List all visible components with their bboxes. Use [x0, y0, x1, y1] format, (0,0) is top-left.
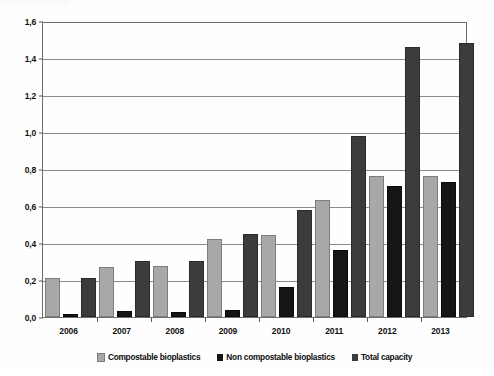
- x-axis-labels: 20062007200820092010201120122013: [42, 326, 467, 336]
- bar: [171, 312, 186, 317]
- x-axis-tick-mark: [151, 317, 152, 322]
- bar: [117, 311, 132, 317]
- bar: [189, 261, 204, 317]
- bar: [207, 239, 222, 317]
- x-axis-tick-label: 2010: [255, 326, 308, 336]
- bar: [315, 200, 330, 317]
- x-axis-tick-label: 2013: [414, 326, 467, 336]
- bar: [297, 210, 312, 317]
- y-axis-tick-label: 0,6: [25, 202, 36, 212]
- x-axis-tick-label: 2008: [148, 326, 201, 336]
- bar: [153, 266, 168, 317]
- bar: [225, 310, 240, 317]
- bar-group: [205, 22, 259, 317]
- y-axis-tick-label: 0,8: [25, 165, 36, 175]
- y-axis-tick-label: 0,0: [25, 313, 36, 323]
- bar-group: [97, 22, 151, 317]
- x-axis-tick-label: 2006: [42, 326, 95, 336]
- bar: [441, 182, 456, 317]
- legend-swatch-icon: [352, 354, 358, 361]
- bar: [333, 250, 348, 317]
- x-axis-tick-mark: [313, 317, 314, 322]
- x-axis-tick-label: 2009: [201, 326, 254, 336]
- legend-item[interactable]: Non compostable bioplastics: [217, 352, 335, 362]
- bar-group: [151, 22, 205, 317]
- bar: [279, 287, 294, 317]
- legend-item[interactable]: Compostable bioplastics: [97, 352, 200, 362]
- bar: [369, 176, 384, 317]
- x-axis-tick-label: 2007: [95, 326, 148, 336]
- bar: [99, 267, 114, 317]
- y-axis-tick-mark: [39, 318, 43, 319]
- bar-group: [43, 22, 97, 317]
- bar: [351, 136, 366, 317]
- bar: [261, 235, 276, 317]
- y-axis-tick-label: 1,2: [25, 91, 36, 101]
- scan-artifact-top: [0, 0, 70, 7]
- y-axis-tick-label: 1,6: [25, 17, 36, 27]
- y-axis-tick-label: 0,2: [25, 276, 36, 286]
- bar: [387, 186, 402, 318]
- bar: [81, 278, 96, 317]
- bar: [405, 47, 420, 317]
- x-axis-tick-mark: [97, 317, 98, 322]
- bar-group: [421, 22, 475, 317]
- bar: [459, 43, 474, 317]
- x-axis-tick-mark: [259, 317, 260, 322]
- x-axis-tick-label: 2011: [308, 326, 361, 336]
- legend-label: Non compostable bioplastics: [226, 352, 335, 362]
- bar-group: [367, 22, 421, 317]
- bar: [63, 314, 78, 317]
- x-axis-tick-mark: [205, 317, 206, 322]
- bar: [423, 176, 438, 317]
- bar: [135, 261, 150, 317]
- y-axis-tick-label: 1,0: [25, 128, 36, 138]
- bar: [243, 234, 258, 317]
- bar-chart: 0,00,20,40,60,81,01,21,41,6 200620072008…: [0, 0, 494, 376]
- bar-group: [259, 22, 313, 317]
- bar-groups: [43, 22, 466, 317]
- x-axis-tick-label: 2012: [361, 326, 414, 336]
- bar-group: [313, 22, 367, 317]
- x-axis-tick-mark: [367, 317, 368, 322]
- legend-swatch-icon: [217, 354, 223, 361]
- legend-label: Total capacity: [361, 352, 412, 362]
- y-axis-tick-label: 0,4: [25, 239, 36, 249]
- legend-label: Compostable bioplastics: [108, 352, 200, 362]
- legend-swatch-icon: [97, 353, 105, 362]
- plot-area: 0,00,20,40,60,81,01,21,41,6: [42, 22, 467, 318]
- legend-item[interactable]: Total capacity: [352, 352, 412, 362]
- scan-artifact-bottom: [0, 370, 494, 376]
- bar: [45, 278, 60, 317]
- y-axis-tick-label: 1,4: [25, 54, 36, 64]
- x-axis-tick-mark: [421, 317, 422, 322]
- chart-legend: Compostable bioplasticsNon compostable b…: [42, 352, 467, 362]
